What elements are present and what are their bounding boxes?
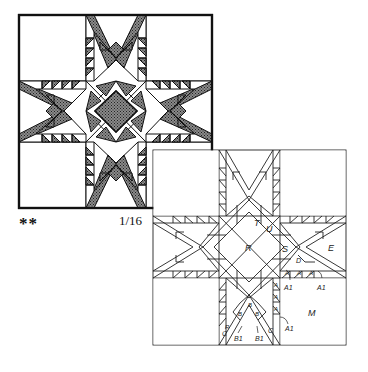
scale-label: 1/16 [119, 213, 142, 229]
label-S: S [282, 244, 288, 254]
diagram-arm-top [219, 150, 280, 216]
label-A-down-2: A [273, 294, 278, 300]
label-R: R [245, 243, 252, 253]
label-A1-1: A1 [283, 284, 293, 291]
piecing-diagram: R T U S E D M A A A A A A A1 A1 A1 B B B… [153, 150, 346, 345]
label-B1-2: B1 [255, 335, 264, 342]
label-M: M [308, 308, 316, 318]
label-A-right-2: A [296, 270, 301, 276]
label-B1-1: B1 [234, 335, 243, 342]
center-star [86, 81, 146, 142]
label-A1-2: A1 [316, 284, 326, 291]
label-A-right-3: A [308, 270, 313, 276]
label-A-down-1: A [273, 282, 278, 288]
label-B-top: B [248, 302, 252, 308]
label-D: D [296, 257, 301, 264]
label-A1-3: A1 [284, 325, 294, 332]
diagram-arm-left [153, 216, 219, 278]
label-B-right: B [255, 311, 259, 317]
label-B-left: B [238, 311, 242, 317]
diagram-arm-right [280, 216, 346, 278]
label-A-right-1: A [284, 270, 289, 276]
label-U: U [266, 224, 273, 234]
label-E: E [328, 243, 335, 253]
label-A-down-3: A [273, 306, 278, 312]
difficulty-rating: ** [19, 214, 38, 234]
diagram-arm-bottom [219, 278, 280, 345]
quilt-diagram-canvas: R T U S E D M A A A A A A A1 A1 A1 B B B… [0, 0, 368, 372]
